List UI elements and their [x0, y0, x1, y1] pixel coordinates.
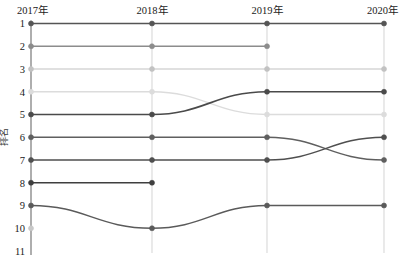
- data-point-marker: [265, 158, 270, 163]
- x-tick-label-2017年: 2017年: [17, 4, 48, 16]
- data-point-marker: [382, 158, 387, 163]
- data-point-marker: [29, 158, 34, 163]
- data-point-marker: [382, 67, 387, 72]
- data-point-marker: [265, 89, 270, 94]
- y-tick-label-7: 7: [20, 155, 25, 166]
- line-series-rank-7: [31, 137, 384, 160]
- y-tick-label-6: 6: [20, 132, 25, 143]
- data-point-marker: [150, 21, 155, 26]
- y-tick-label-8: 8: [20, 178, 25, 189]
- data-point-marker: [382, 89, 387, 94]
- data-point-marker: [150, 112, 155, 117]
- data-point-marker: [29, 226, 34, 231]
- data-point-marker: [29, 180, 34, 185]
- data-point-marker: [265, 135, 270, 140]
- data-point-marker: [150, 44, 155, 49]
- y-axis-title-group: 排名: [0, 128, 9, 146]
- data-point-marker: [382, 135, 387, 140]
- y-tick-label-1: 1: [20, 18, 25, 29]
- rank-line-chart: 2017年2018年2019年2020年 1234567891011 排名: [0, 0, 401, 264]
- data-point-marker: [265, 67, 270, 72]
- x-tick-label-2019年: 2019年: [252, 4, 283, 16]
- data-point-marker: [29, 67, 34, 72]
- x-tick-label-2020年: 2020年: [367, 4, 398, 16]
- data-point-marker: [150, 89, 155, 94]
- x-tick-label-2018年: 2018年: [137, 4, 168, 16]
- y-tick-label-11: 11: [15, 246, 25, 257]
- data-point-marker: [150, 135, 155, 140]
- data-point-marker: [29, 44, 34, 49]
- y-tick-label-3: 3: [20, 64, 25, 75]
- data-point-marker: [29, 203, 34, 208]
- x-tick-labels-group: 2017年2018年2019年2020年: [17, 4, 398, 16]
- data-point-marker: [29, 112, 34, 117]
- line-series-rank-5: [31, 92, 384, 115]
- chart-canvas: 2017年2018年2019年2020年 1234567891011 排名: [0, 0, 401, 264]
- marker-group: [29, 21, 387, 231]
- data-point-marker: [29, 21, 34, 26]
- y-tick-label-5: 5: [20, 109, 25, 120]
- y-tick-labels-group: 1234567891011: [15, 18, 26, 256]
- data-point-marker: [29, 89, 34, 94]
- data-point-marker: [265, 21, 270, 26]
- data-point-marker: [382, 112, 387, 117]
- y-tick-label-10: 10: [15, 223, 26, 234]
- data-point-marker: [382, 21, 387, 26]
- data-point-marker: [265, 203, 270, 208]
- y-tick-label-4: 4: [20, 87, 26, 98]
- y-tick-label-9: 9: [20, 200, 25, 211]
- series-group: [31, 24, 384, 229]
- data-point-marker: [382, 203, 387, 208]
- data-point-marker: [150, 67, 155, 72]
- data-point-marker: [150, 180, 155, 185]
- y-tick-label-2: 2: [20, 41, 25, 52]
- data-point-marker: [265, 112, 270, 117]
- data-point-marker: [29, 135, 34, 140]
- line-series-rank-6: [31, 137, 384, 160]
- line-series-rank-9: [31, 206, 384, 229]
- data-point-marker: [150, 158, 155, 163]
- data-point-marker: [150, 226, 155, 231]
- data-point-marker: [265, 44, 270, 49]
- y-axis-title: 排名: [0, 128, 9, 146]
